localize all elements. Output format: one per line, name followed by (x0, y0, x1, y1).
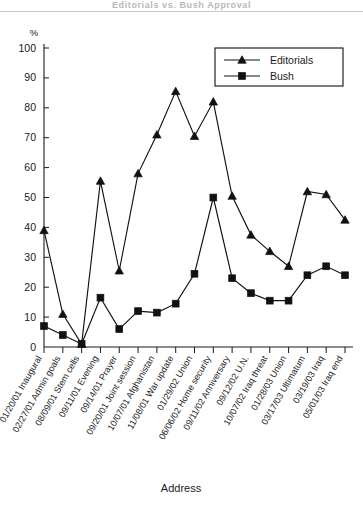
figure-title-fragment: Editorials vs. Bush Approval (0, 0, 363, 11)
data-point-marker (266, 297, 273, 304)
y-axis-tick-label: 90 (24, 71, 36, 83)
data-point-marker (78, 341, 85, 348)
y-axis-tick-label: 50 (24, 191, 36, 203)
data-point-marker (303, 187, 311, 194)
data-point-marker (41, 323, 48, 330)
figure-container: Editorials vs. Bush Approval %0102030405… (0, 0, 363, 508)
data-point-marker (304, 272, 311, 279)
data-point-marker (153, 131, 161, 138)
data-point-marker (248, 290, 255, 297)
data-point-marker (210, 194, 217, 201)
data-point-marker (209, 98, 217, 105)
data-point-marker (97, 294, 104, 301)
data-point-marker (59, 310, 67, 317)
y-axis-tick-label: 100 (18, 42, 36, 54)
y-axis-tick-label: 60 (24, 161, 36, 173)
title-divider (0, 11, 363, 12)
data-point-marker (153, 309, 160, 316)
data-point-marker (190, 132, 198, 139)
data-point-marker (284, 262, 292, 269)
data-point-marker (59, 332, 66, 339)
data-point-marker (115, 267, 123, 274)
y-axis-tick-label: 20 (24, 281, 36, 293)
data-point-marker (172, 300, 179, 307)
data-point-marker (285, 297, 292, 304)
data-point-marker (228, 192, 236, 199)
legend-label-editorials: Editorials (270, 54, 313, 66)
data-point-marker (247, 231, 255, 238)
series-line-editorials (44, 91, 345, 344)
data-point-marker (135, 308, 142, 315)
y-axis-tick-label: 10 (24, 311, 36, 323)
y-axis-tick-label: 30 (24, 251, 36, 263)
data-point-marker (229, 275, 236, 282)
x-axis-title: Address (161, 482, 202, 494)
y-axis-tick-label: 80 (24, 101, 36, 113)
y-axis-tick-label: 70 (24, 131, 36, 143)
y-axis-tick-label: 40 (24, 221, 36, 233)
data-point-marker (171, 87, 179, 94)
data-point-marker (134, 169, 142, 176)
data-point-marker (323, 263, 330, 270)
data-point-marker (191, 270, 198, 277)
y-axis-unit-label: % (30, 27, 39, 38)
data-point-marker (239, 73, 246, 80)
line-chart: %010203040506070809010001/20/01 Inaugura… (0, 0, 363, 508)
data-point-marker (342, 272, 349, 279)
legend-label-bush: Bush (270, 70, 294, 82)
y-axis-tick-label: 0 (30, 341, 36, 353)
data-point-marker (116, 326, 123, 333)
data-point-marker (96, 177, 104, 184)
